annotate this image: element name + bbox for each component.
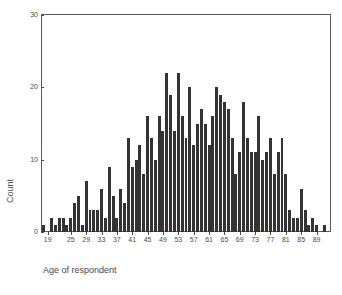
- histogram-bar: [92, 210, 95, 232]
- histogram-bar: [100, 189, 103, 232]
- x-tick-label: 81: [282, 236, 290, 244]
- x-tick-mark: [71, 232, 72, 235]
- x-tick-mark: [224, 232, 225, 235]
- histogram-bar: [181, 116, 184, 232]
- histogram-bar: [211, 116, 214, 232]
- x-tick-mark: [255, 232, 256, 235]
- histogram-bar: [115, 218, 118, 232]
- x-tick-mark: [102, 232, 103, 235]
- x-tick-mark: [194, 232, 195, 235]
- x-tick-mark: [178, 232, 179, 235]
- y-axis-labels: 0102030: [14, 0, 38, 295]
- x-tick-mark: [270, 232, 271, 235]
- histogram-bar: [257, 116, 260, 232]
- histogram-bar: [250, 152, 253, 232]
- histogram-bar: [277, 152, 280, 232]
- x-tick-label: 53: [174, 236, 182, 244]
- histogram-bar: [96, 210, 99, 232]
- histogram-bar: [188, 87, 191, 232]
- histogram-bar: [281, 138, 284, 232]
- histogram-bar: [135, 160, 138, 232]
- histogram-bar: [108, 167, 111, 232]
- histogram-bar: [223, 102, 226, 232]
- x-tick-mark: [286, 232, 287, 235]
- x-tick-label: 65: [220, 236, 228, 244]
- histogram-bar: [58, 218, 61, 232]
- y-tick-mark: [41, 15, 44, 16]
- x-tick-label: 85: [297, 236, 305, 244]
- histogram-bar: [292, 218, 295, 232]
- x-tick-label: 37: [113, 236, 121, 244]
- histogram-bar: [307, 225, 310, 232]
- x-tick-mark: [48, 232, 49, 235]
- histogram-bar: [81, 225, 84, 232]
- histogram-bar: [204, 124, 207, 233]
- x-axis-labels: 192529333741454953576165697377818589: [0, 236, 342, 248]
- x-tick-label: 69: [236, 236, 244, 244]
- x-tick-label: 77: [267, 236, 275, 244]
- histogram-bar: [173, 131, 176, 232]
- histogram-bar: [69, 218, 72, 232]
- x-tick-mark: [148, 232, 149, 235]
- histogram-bar: [300, 189, 303, 232]
- histogram-bar: [261, 160, 264, 232]
- x-tick-mark: [163, 232, 164, 235]
- x-tick-label: 49: [159, 236, 167, 244]
- histogram-bar: [269, 138, 272, 232]
- histogram-bar: [165, 73, 168, 232]
- histogram-bar: [154, 160, 157, 232]
- histogram-bar: [227, 109, 230, 232]
- histogram-bar: [42, 225, 45, 232]
- x-tick-label: 45: [144, 236, 152, 244]
- histogram-bar: [138, 145, 141, 232]
- histogram-bar: [323, 225, 326, 232]
- histogram-bar: [161, 131, 164, 232]
- y-axis-title: Count: [5, 163, 15, 219]
- histogram-bar: [73, 203, 76, 232]
- histogram-bar: [131, 167, 134, 232]
- histogram-bar: [311, 218, 314, 232]
- histogram-bar: [177, 73, 180, 232]
- y-tick-mark: [41, 160, 44, 161]
- x-tick-mark: [209, 232, 210, 235]
- histogram-bar: [242, 102, 245, 232]
- histogram-bar: [215, 87, 218, 232]
- histogram-bar: [127, 138, 130, 232]
- x-tick-mark: [132, 232, 133, 235]
- y-tick-label: 20: [30, 83, 38, 90]
- histogram-bar: [273, 174, 276, 232]
- histogram-bar: [254, 152, 257, 232]
- histogram-chart: 0102030 19252933374145495357616569737781…: [0, 0, 342, 295]
- histogram-bar: [104, 218, 107, 232]
- y-tick-mark: [41, 232, 44, 233]
- x-tick-label: 33: [98, 236, 106, 244]
- histogram-bar: [231, 138, 234, 232]
- histogram-bar: [54, 225, 57, 232]
- histogram-bar: [169, 95, 172, 232]
- histogram-bar: [234, 174, 237, 232]
- y-tick-label: 30: [30, 11, 38, 18]
- histogram-bar: [315, 225, 318, 232]
- histogram-bar: [304, 210, 307, 232]
- x-tick-mark: [240, 232, 241, 235]
- histogram-bar: [284, 174, 287, 232]
- x-tick-label: 57: [190, 236, 198, 244]
- histogram-bar: [265, 152, 268, 232]
- histogram-bar: [296, 218, 299, 232]
- x-tick-mark: [117, 232, 118, 235]
- x-tick-label: 73: [251, 236, 259, 244]
- histogram-bar: [238, 152, 241, 232]
- histogram-bar: [77, 196, 80, 232]
- x-tick-label: 19: [44, 236, 52, 244]
- x-tick-label: 29: [82, 236, 90, 244]
- y-tick-label: 0: [34, 228, 38, 235]
- histogram-bar: [192, 145, 195, 232]
- histogram-bar: [288, 210, 291, 232]
- histogram-bar: [112, 196, 115, 232]
- x-tick-label: 61: [205, 236, 213, 244]
- histogram-bar: [62, 218, 65, 232]
- x-axis-title: Age of respondent: [43, 265, 117, 275]
- histogram-bar: [65, 225, 68, 232]
- histogram-bar: [142, 174, 145, 232]
- y-tick-label: 10: [30, 156, 38, 163]
